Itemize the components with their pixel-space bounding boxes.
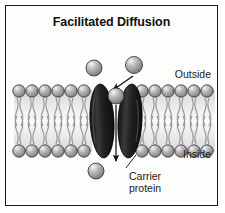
molecule-outside-left xyxy=(86,60,102,76)
label-carrier-line2: protein xyxy=(129,183,161,195)
molecule-in-channel xyxy=(108,88,124,104)
figure-title: Facilitated Diffusion xyxy=(6,15,217,29)
label-inside: Inside xyxy=(183,148,211,160)
molecule-inside-bottom xyxy=(88,163,104,179)
figure-frame: Facilitated Diffusion Outside Inside Car… xyxy=(5,5,218,206)
molecule-outside-right xyxy=(126,57,143,74)
label-carrier-line1: Carrier xyxy=(129,171,161,183)
label-outside: Outside xyxy=(175,68,211,80)
label-carrier-protein: Carrier protein xyxy=(129,171,161,194)
diagram-canvas xyxy=(6,6,217,205)
facilitated-diffusion-figure: Facilitated Diffusion Outside Inside Car… xyxy=(0,0,225,213)
